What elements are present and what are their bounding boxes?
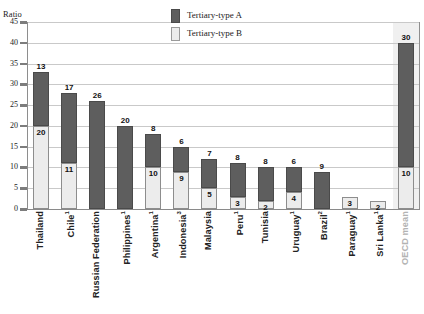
y-tick-label: 45 bbox=[10, 17, 18, 27]
x-axis-label-malaysia: Malaysia bbox=[204, 211, 213, 250]
y-tick-dash-icon bbox=[20, 187, 27, 190]
bar-segment-tertiary-type-a[interactable] bbox=[201, 159, 217, 188]
bar-value-label-b: 4 bbox=[291, 194, 295, 203]
bar-value-label-a: 20 bbox=[121, 116, 130, 125]
bar-group[interactable]: 96 bbox=[173, 147, 189, 209]
y-tick-label: 35 bbox=[10, 59, 18, 69]
x-axis-label-brazil: Brazil2 bbox=[317, 211, 329, 240]
y-axis-ticks: 454035302520151050 bbox=[0, 22, 27, 209]
x-axis-label-russian-federation: Russian Federation bbox=[92, 211, 101, 298]
y-tick-label: 15 bbox=[10, 142, 18, 152]
chart-root: Ratio 454035302520151050 201311172620108… bbox=[0, 0, 424, 314]
bar-value-label-b: 9 bbox=[179, 174, 183, 183]
x-axis-label-thailand: Thailand bbox=[36, 211, 45, 250]
y-tick-25: 25 bbox=[0, 100, 27, 110]
x-axis-label-tunisia: Tunisia bbox=[261, 211, 270, 243]
bar-segment-tertiary-type-a[interactable] bbox=[61, 93, 77, 164]
bar-value-label-a: 17 bbox=[65, 83, 74, 92]
y-tick-label: 5 bbox=[14, 183, 18, 193]
bar-value-label-a: 6 bbox=[179, 137, 183, 146]
y-tick-label: 25 bbox=[10, 100, 18, 110]
y-tick-dash-icon bbox=[20, 125, 27, 128]
y-tick-0: 0 bbox=[0, 204, 27, 214]
x-axis-label-oecd-mean: OECD mean bbox=[401, 211, 410, 265]
y-tick-dash-icon bbox=[20, 21, 27, 24]
y-tick-dash-icon bbox=[20, 63, 27, 66]
bar-value-label-a: 7 bbox=[207, 149, 211, 158]
bar-value-label-b: 5 bbox=[207, 190, 211, 199]
bar-segment-tertiary-type-a[interactable] bbox=[117, 126, 133, 209]
y-tick-30: 30 bbox=[0, 79, 27, 89]
y-tick-dash-icon bbox=[20, 208, 27, 211]
footnote-marker: 1 bbox=[148, 211, 154, 214]
y-tick-45: 45 bbox=[0, 17, 27, 27]
legend-swatch-a-icon bbox=[171, 9, 180, 23]
bar-segment-tertiary-type-a[interactable] bbox=[89, 101, 105, 209]
x-axis-label-philippines: Philippines1 bbox=[120, 211, 132, 265]
bar-group[interactable]: 2013 bbox=[33, 72, 49, 209]
bar-value-label-a: 6 bbox=[291, 157, 295, 166]
bar-group[interactable]: 46 bbox=[286, 167, 302, 209]
x-axis-label-chile: Chile1 bbox=[64, 211, 76, 237]
y-tick-dash-icon bbox=[20, 104, 27, 107]
bar-group[interactable]: 9 bbox=[314, 172, 330, 209]
bar-group[interactable]: 20 bbox=[117, 126, 133, 209]
bar-value-label-b: 11 bbox=[65, 165, 73, 174]
bar-value-label-b: 10 bbox=[402, 169, 411, 178]
y-tick-dash-icon bbox=[20, 83, 27, 86]
bar-value-label-a: 8 bbox=[235, 153, 239, 162]
y-tick-label: 10 bbox=[10, 162, 18, 172]
bar-segment-tertiary-type-a[interactable] bbox=[173, 147, 189, 172]
legend-swatch-b-icon bbox=[171, 27, 180, 41]
y-tick-dash-icon bbox=[20, 42, 27, 45]
x-axis-label-paraguay: Paraguay1 bbox=[345, 211, 357, 257]
bar-segment-tertiary-type-a[interactable] bbox=[314, 172, 330, 209]
bar-segment-tertiary-type-a[interactable] bbox=[33, 72, 49, 126]
legend-label-b: Tertiary-type B bbox=[187, 28, 242, 38]
bar-value-label-a: 9 bbox=[320, 162, 324, 171]
footnote-marker: 1 bbox=[373, 211, 379, 214]
bar-segment-tertiary-type-a[interactable] bbox=[230, 163, 246, 196]
bar-segment-tertiary-type-a[interactable] bbox=[145, 134, 161, 167]
y-tick-40: 40 bbox=[0, 38, 27, 48]
bars-container: 20131117262010896573828469321030 bbox=[27, 22, 420, 209]
x-axis-labels: ThailandChile1Russian FederationPhilippi… bbox=[27, 211, 420, 311]
bar-group[interactable]: 28 bbox=[258, 167, 274, 209]
footnote-marker: 1 bbox=[64, 211, 70, 214]
bar-group[interactable]: 2 bbox=[370, 201, 386, 209]
bar-segment-tertiary-type-a[interactable] bbox=[258, 167, 274, 200]
y-tick-label: 20 bbox=[10, 121, 18, 131]
plot-area: 20131117262010896573828469321030 bbox=[27, 22, 420, 209]
y-tick-label: 30 bbox=[10, 79, 18, 89]
x-axis-label-indonesia: Indonesia3 bbox=[176, 211, 188, 258]
bar-group[interactable]: 57 bbox=[201, 159, 217, 209]
y-tick-15: 15 bbox=[0, 142, 27, 152]
bar-value-label-b: 3 bbox=[235, 199, 239, 208]
bar-group[interactable]: 26 bbox=[89, 101, 105, 209]
bar-segment-tertiary-type-a[interactable] bbox=[398, 43, 414, 168]
bar-value-label-a: 30 bbox=[402, 33, 411, 42]
bar-group[interactable]: 108 bbox=[145, 134, 161, 209]
footnote-marker: 1 bbox=[345, 211, 351, 214]
bar-value-label-a: 8 bbox=[263, 157, 267, 166]
bar-value-label-a: 13 bbox=[37, 62, 46, 71]
y-tick-20: 20 bbox=[0, 121, 27, 131]
bar-group[interactable]: 1117 bbox=[61, 93, 77, 209]
x-axis-label-peru: Peru1 bbox=[233, 211, 245, 235]
bar-segment-tertiary-type-a[interactable] bbox=[286, 167, 302, 192]
bar-segment-tertiary-type-b[interactable] bbox=[33, 126, 49, 209]
bar-group[interactable]: 1030 bbox=[398, 43, 414, 209]
bar-group[interactable]: 38 bbox=[230, 163, 246, 209]
bar-value-label-a: 8 bbox=[151, 124, 155, 133]
bar-value-label-b: 10 bbox=[149, 169, 158, 178]
bar-group[interactable]: 3 bbox=[342, 197, 358, 209]
y-tick-dash-icon bbox=[20, 146, 27, 149]
y-tick-10: 10 bbox=[0, 162, 27, 172]
x-axis-label-argentina: Argentina1 bbox=[148, 211, 160, 258]
y-tick-5: 5 bbox=[0, 183, 27, 193]
y-tick-dash-icon bbox=[20, 166, 27, 169]
footnote-marker: 1 bbox=[289, 211, 295, 214]
bar-value-label-b: 20 bbox=[37, 128, 46, 137]
footnote-marker: 1 bbox=[120, 211, 126, 214]
legend-label-a: Tertiary-type A bbox=[187, 10, 242, 20]
